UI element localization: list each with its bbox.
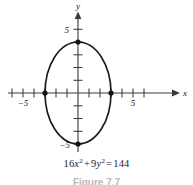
figure-container: −5 5 5 −5 x y 16x2+9y2=144 Figure 7.7: [0, 0, 193, 185]
y-tick-label-negative-five: −5: [59, 140, 70, 150]
y-tick-label-positive-five: 5: [65, 25, 70, 35]
equation-plus: +: [83, 158, 91, 169]
equation-coef-x: 16: [63, 158, 74, 169]
figure-number-caption: Figure 7.7: [0, 177, 193, 185]
x-axis-arrowhead: [172, 90, 180, 97]
equation-rhs: 144: [113, 158, 129, 169]
x-tick-label-positive-five: 5: [131, 98, 136, 108]
vertex-marker-bottom: [75, 141, 80, 146]
x-axis-label: x: [182, 88, 187, 98]
equation-caption: 16x2+9y2=144: [0, 158, 193, 169]
equation-equals: =: [105, 158, 113, 169]
vertex-marker-left: [42, 90, 47, 95]
y-axis-arrowhead: [75, 12, 82, 20]
vertex-marker-top: [75, 39, 80, 44]
x-tick-label-negative-five: −5: [18, 98, 29, 108]
vertex-marker-right: [108, 90, 113, 95]
y-axis-label: y: [75, 1, 80, 11]
